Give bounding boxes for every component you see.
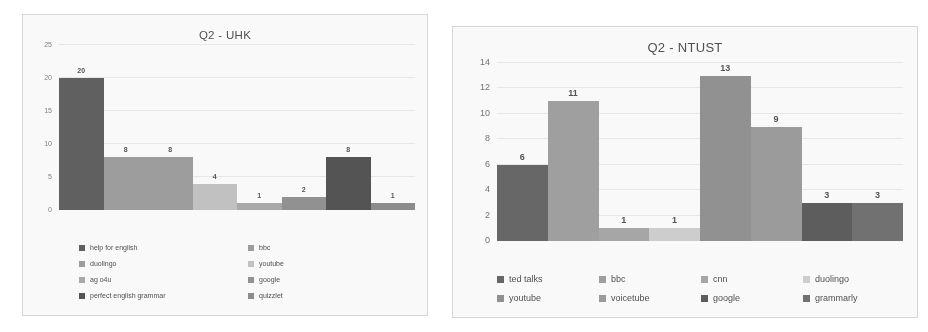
bar-slot: 1 (371, 45, 416, 210)
bar-quizzlet: 1 (371, 203, 416, 210)
legend-label: grammarly (815, 293, 858, 303)
legend-swatch-icon (248, 293, 254, 299)
bar-value-label: 4 (193, 173, 238, 180)
y-axis-tick-ntust: 10 (480, 108, 490, 118)
legend-label: google (713, 293, 740, 303)
plot-area-ntust: 024681012146111113933 (497, 63, 903, 241)
chart-title-uhk: Q2 - UHK (23, 29, 427, 41)
bar-ag-o4u: 1 (237, 203, 282, 210)
legend-swatch-icon (803, 295, 810, 302)
bar-slot: 2 (282, 45, 327, 210)
y-axis-tick-uhk: 25 (44, 41, 52, 48)
legend-item-youtube[interactable]: youtube (248, 260, 407, 267)
y-axis-tick-ntust: 14 (480, 57, 490, 67)
legend-swatch-icon (497, 276, 504, 283)
legend-swatch-icon (803, 276, 810, 283)
bar-slot: 1 (599, 63, 650, 241)
legend-swatch-icon (248, 261, 254, 267)
legend-swatch-icon (599, 276, 606, 283)
bar-slot: 1 (649, 63, 700, 241)
legend-label: perfect english grammar (90, 292, 165, 299)
legend-item-duolingo[interactable]: duolingo (79, 260, 238, 267)
legend-item-voicetube[interactable]: voicetube (599, 293, 697, 303)
legend-label: ted talks (509, 274, 543, 284)
bar-slot: 1 (237, 45, 282, 210)
legend-label: google (259, 276, 280, 283)
bar-value-label: 11 (548, 88, 599, 98)
y-axis-tick-ntust: 0 (485, 235, 490, 245)
y-axis-tick-uhk: 10 (44, 140, 52, 147)
legend-item-quizzlet[interactable]: quizzlet (248, 292, 407, 299)
legend-label: youtube (259, 260, 284, 267)
legend-swatch-icon (248, 245, 254, 251)
bar-google: 2 (282, 197, 327, 210)
bar-help-for-english: 20 (59, 78, 104, 210)
bar-value-label: 2 (282, 186, 327, 193)
legend-label: duolingo (90, 260, 116, 267)
legend-item-bbc[interactable]: bbc (248, 244, 407, 251)
legend-item-help-for-english[interactable]: help for english (79, 244, 238, 251)
legend-swatch-icon (79, 261, 85, 267)
bar-google: 3 (802, 203, 853, 241)
legend-swatch-icon (599, 295, 606, 302)
legend-item-ted-talks[interactable]: ted talks (497, 274, 595, 284)
chart-legend-ntust: ted talksbbccnnduolingoyoutubevoicetubeg… (497, 274, 901, 303)
legend-item-grammarly[interactable]: grammarly (803, 293, 901, 303)
bar-value-label: 8 (326, 146, 371, 153)
legend-item-google[interactable]: google (248, 276, 407, 283)
bar-youtube: 4 (193, 184, 238, 210)
bar-slot: 13 (700, 63, 751, 241)
bar-bbc: 8 (104, 157, 149, 210)
legend-item-google[interactable]: google (701, 293, 799, 303)
legend-item-perfect-english-grammar[interactable]: perfect english grammar (79, 292, 238, 299)
plot-area-uhk: 0510152025208841281 (59, 45, 415, 210)
legend-item-cnn[interactable]: cnn (701, 274, 799, 284)
bar-slot: 9 (751, 63, 802, 241)
y-axis-tick-uhk: 0 (48, 206, 52, 213)
chart-panel-ntust: Q2 - NTUST 024681012146111113933 ted tal… (452, 26, 918, 318)
legend-item-bbc[interactable]: bbc (599, 274, 697, 284)
bar-value-label: 13 (700, 63, 751, 73)
bar-ted-talks: 6 (497, 165, 548, 241)
bar-value-label: 8 (104, 146, 149, 153)
bar-slot: 20 (59, 45, 104, 210)
bar-youtube: 13 (700, 76, 751, 241)
legend-swatch-icon (79, 293, 85, 299)
legend-label: cnn (713, 274, 728, 284)
bar-value-label: 1 (599, 215, 650, 225)
legend-label: ag o4u (90, 276, 111, 283)
bar-series-ntust: 6111113933 (497, 63, 903, 241)
legend-swatch-icon (79, 245, 85, 251)
y-axis-tick-ntust: 6 (485, 159, 490, 169)
bar-voicetube: 9 (751, 127, 802, 241)
bar-value-label: 9 (751, 114, 802, 124)
bar-duolingo: 8 (148, 157, 193, 210)
legend-swatch-icon (79, 277, 85, 283)
legend-label: bbc (611, 274, 626, 284)
bar-slot: 8 (148, 45, 193, 210)
chart-title-ntust: Q2 - NTUST (453, 40, 917, 55)
bar-bbc: 11 (548, 101, 599, 241)
y-axis-tick-ntust: 2 (485, 210, 490, 220)
bar-value-label: 1 (371, 192, 416, 199)
legend-label: quizzlet (259, 292, 283, 299)
legend-item-duolingo[interactable]: duolingo (803, 274, 901, 284)
y-axis-tick-ntust: 12 (480, 82, 490, 92)
bar-value-label: 20 (59, 67, 104, 74)
legend-item-ag-o4u[interactable]: ag o4u (79, 276, 238, 283)
bar-cnn: 1 (599, 228, 650, 241)
legend-item-youtube[interactable]: youtube (497, 293, 595, 303)
legend-swatch-icon (701, 276, 708, 283)
bar-slot: 8 (104, 45, 149, 210)
legend-label: voicetube (611, 293, 650, 303)
bar-slot: 8 (326, 45, 371, 210)
chart-legend-uhk: help for englishbbcduolingoyoutubeag o4u… (79, 244, 407, 299)
y-axis-tick-uhk: 5 (48, 173, 52, 180)
legend-swatch-icon (248, 277, 254, 283)
chart-panel-uhk: Q2 - UHK 0510152025208841281 help for en… (22, 14, 428, 316)
bar-series-uhk: 208841281 (59, 45, 415, 210)
bar-value-label: 1 (649, 215, 700, 225)
bar-value-label: 3 (802, 190, 853, 200)
y-axis-tick-ntust: 4 (485, 184, 490, 194)
legend-label: duolingo (815, 274, 849, 284)
